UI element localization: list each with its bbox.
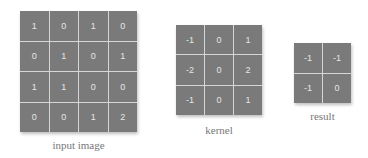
result-label: result — [284, 110, 361, 122]
input-cell: 1 — [79, 11, 108, 41]
result-cell: -1 — [294, 43, 322, 73]
kernel-cell: 0 — [205, 86, 233, 115]
result-cell: 0 — [323, 74, 351, 104]
input-cell: 0 — [79, 42, 108, 72]
input-cell: 0 — [20, 42, 49, 72]
input-cell: 2 — [109, 103, 138, 133]
kernel-cell: -1 — [176, 86, 204, 115]
result-cell: -1 — [323, 43, 351, 73]
kernel-cell: -1 — [176, 25, 204, 54]
input-cell: 1 — [79, 103, 108, 133]
input-cell: 0 — [20, 103, 49, 133]
input-image-matrix: 1 0 1 0 0 1 0 1 1 1 0 0 0 0 1 2 — [20, 11, 137, 132]
input-cell: 1 — [50, 72, 79, 102]
kernel-matrix: -1 0 1 -2 0 2 -1 0 1 — [176, 25, 262, 115]
kernel-cell: 1 — [234, 25, 262, 54]
result-matrix: -1 -1 -1 0 — [294, 43, 351, 103]
input-cell: 0 — [50, 11, 79, 41]
input-cell: 0 — [109, 72, 138, 102]
input-cell: 0 — [79, 72, 108, 102]
input-cell: 0 — [109, 11, 138, 41]
input-cell: 1 — [109, 42, 138, 72]
kernel-cell: 1 — [234, 86, 262, 115]
input-cell: 1 — [20, 72, 49, 102]
kernel-cell: 2 — [234, 55, 262, 84]
result-cell: -1 — [294, 74, 322, 104]
input-cell: 0 — [50, 103, 79, 133]
input-cell: 1 — [20, 11, 49, 41]
kernel-cell: 0 — [205, 55, 233, 84]
kernel-cell: -2 — [176, 55, 204, 84]
input-image-label: input image — [20, 139, 137, 151]
kernel-label: kernel — [176, 124, 262, 136]
kernel-cell: 0 — [205, 25, 233, 54]
input-cell: 1 — [50, 42, 79, 72]
